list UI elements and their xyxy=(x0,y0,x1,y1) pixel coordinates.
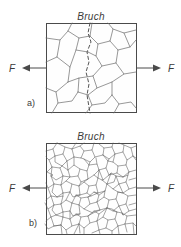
fracture-microstructure-figure: Bruch xyxy=(0,0,181,247)
force-label-right-b: F xyxy=(168,183,175,194)
panel-a-specimen-box xyxy=(47,24,137,113)
force-arrow-right-a: F xyxy=(137,63,175,74)
force-arrow-left-b: F xyxy=(9,183,46,194)
force-label-left-b: F xyxy=(9,183,16,194)
force-arrow-right-b: F xyxy=(137,183,175,194)
panel-b-label: b) xyxy=(29,218,37,228)
panel-a-label: a) xyxy=(27,98,35,108)
panel-b-title: Bruch xyxy=(77,131,105,142)
panel-a-title: Bruch xyxy=(77,11,105,22)
panel-a: Bruch xyxy=(9,11,175,113)
panel-b: Bruch xyxy=(9,131,175,235)
panel-b-specimen-box xyxy=(47,144,137,235)
force-arrow-left-a: F xyxy=(9,63,46,74)
force-label-left-a: F xyxy=(9,63,16,74)
force-label-right-a: F xyxy=(168,63,175,74)
